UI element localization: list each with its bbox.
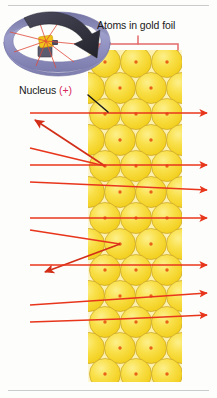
nucleus-dot — [149, 138, 152, 141]
nucleus-dot — [103, 320, 106, 323]
nucleus-dot — [165, 372, 168, 375]
atom — [74, 333, 105, 364]
nucleus-dot — [149, 242, 152, 245]
atom-row — [90, 307, 183, 338]
atom — [74, 73, 105, 104]
nucleus-dot — [149, 86, 152, 89]
diagram-canvas — [0, 0, 217, 398]
atom — [74, 281, 105, 312]
atom-row — [90, 255, 183, 286]
nucleus-label: Nucleus (+) — [19, 85, 72, 96]
nucleus-dot — [134, 320, 137, 323]
nucleus-dot — [118, 86, 121, 89]
nucleus-charge-symbol: (+) — [59, 84, 72, 96]
rutherford-gold-foil-figure: Atoms in gold foil Nucleus (+) — [0, 0, 217, 398]
atoms-bracket — [99, 36, 178, 50]
nucleus-dot — [165, 320, 168, 323]
atom — [74, 177, 105, 208]
nucleus-dot — [118, 138, 121, 141]
nucleus-dot — [149, 346, 152, 349]
nucleus-dot — [118, 294, 121, 297]
atom-row — [90, 99, 183, 130]
nucleus-dot — [118, 190, 121, 193]
nucleus-dot — [165, 268, 168, 271]
atoms-in-gold-foil-label: Atoms in gold foil — [97, 20, 175, 31]
nucleus-dot — [118, 346, 121, 349]
nucleus-dot — [103, 268, 106, 271]
nucleus-dot — [134, 268, 137, 271]
nucleus-dot — [134, 60, 137, 63]
nucleus-dot — [134, 372, 137, 375]
nucleus-dot — [165, 60, 168, 63]
nucleus-dot — [149, 190, 152, 193]
nucleus-dot — [103, 372, 106, 375]
nucleus-dot — [103, 60, 106, 63]
atom — [74, 125, 105, 156]
nucleus-label-text: Nucleus — [19, 84, 59, 96]
atom-row — [90, 359, 183, 390]
